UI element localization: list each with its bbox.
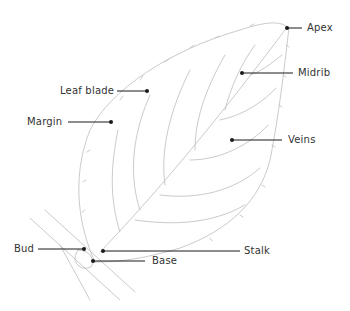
bud-dot [82, 247, 86, 251]
midrib-line [100, 30, 285, 252]
label-base: Base [152, 255, 177, 267]
label-midrib: Midrib [298, 67, 330, 79]
veins-dot [230, 138, 234, 142]
label-veins: Veins [288, 134, 316, 146]
label-margin: Margin [27, 116, 62, 128]
label-apex: Apex [307, 22, 333, 34]
stalk-dot [101, 249, 105, 253]
bud-outline [75, 250, 93, 268]
margin-dot [109, 120, 113, 124]
label-stalk: Stalk [244, 245, 270, 257]
leaf-blade-dot [145, 89, 149, 93]
apex-dot [285, 26, 289, 30]
leaf-outline [79, 23, 289, 262]
midrib-dot [240, 71, 244, 75]
label-leaf-blade: Leaf blade [60, 85, 114, 97]
label-bud: Bud [14, 243, 34, 255]
base-dot [91, 259, 95, 263]
